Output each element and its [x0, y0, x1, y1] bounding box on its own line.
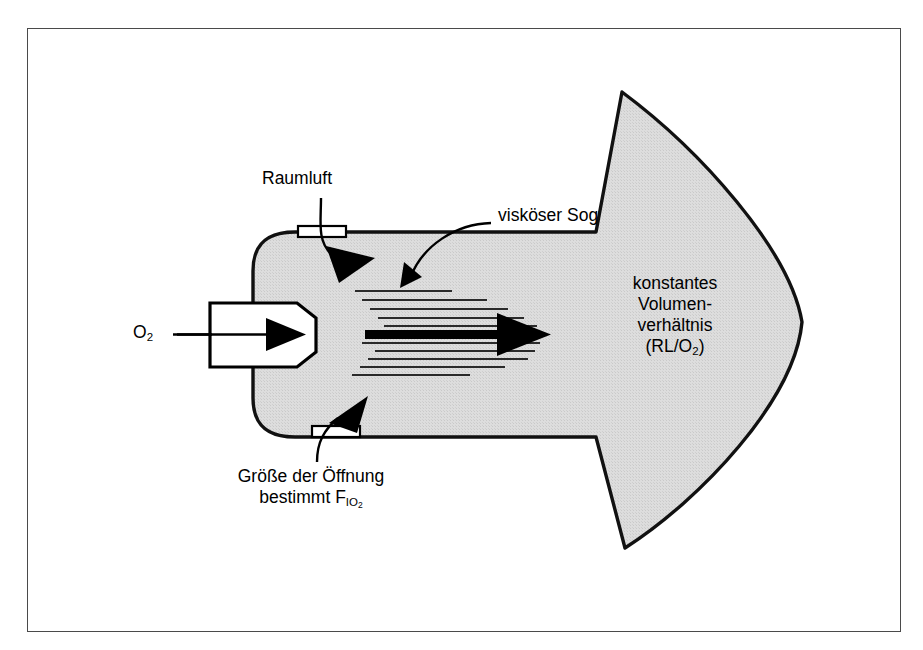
volume-ratio-line4: (RL/O2) [590, 336, 760, 362]
volume-ratio-line2: Volumen- [590, 294, 760, 315]
orifice-label: Größe der Öffnung bestimmt FIO2 [196, 466, 426, 517]
volume-ratio-label: konstantes Volumen- verhältnis (RL/O2) [590, 273, 760, 362]
orifice-label-line1: Größe der Öffnung [196, 466, 426, 487]
volume-ratio-line3: verhältnis [590, 315, 760, 336]
oxygen-inlet-label: O2 [133, 322, 153, 348]
fio2-subscript: IO2 [346, 496, 363, 508]
room-air-label: Raumluft [262, 168, 332, 189]
figure-canvas: O2 Raumluft visköser Sog Größe der Öffnu… [0, 0, 923, 650]
viscous-suction-label: visköser Sog [498, 205, 598, 226]
orifice-label-line2: bestimmt FIO2 [196, 487, 426, 517]
volume-ratio-line1: konstantes [590, 273, 760, 294]
